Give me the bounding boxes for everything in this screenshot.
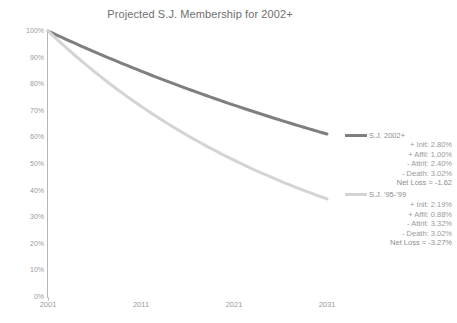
legend-detail-row: - Attrit: 2.40% (345, 159, 452, 169)
legend-detail-row: - Death: 3.02% (345, 229, 452, 239)
legend-entry[interactable]: S.J. 2002+ (345, 130, 457, 140)
legend-detail-row: + Affil: 1.00% (345, 150, 452, 160)
legend-block[interactable]: S.J. '95-'99+ Init: 2.19%+ Affil: 0.88%-… (345, 190, 457, 248)
legend-series-name: S.J. 2002+ (369, 131, 405, 140)
legend-detail-row: + Affil: 0.88% (345, 210, 452, 220)
series-line-1 (48, 31, 327, 134)
legend-net-loss-row: Net Loss = -1.62 (345, 178, 452, 188)
legend-detail-row: + Init: 2.19% (345, 200, 452, 210)
legend-net-loss-row: Net Loss = -3.27% (345, 238, 452, 248)
legend-swatch-icon (345, 134, 367, 137)
legend-block[interactable]: S.J. 2002++ Init: 2.80%+ Affil: 1.00%- A… (345, 130, 457, 188)
chart-container: Projected S.J. Membership for 2002+ 100%… (0, 0, 457, 323)
chart-legend: S.J. 2002++ Init: 2.80%+ Affil: 1.00%- A… (345, 130, 457, 250)
legend-series-name: S.J. '95-'99 (369, 190, 406, 199)
legend-detail-row: - Death: 3.02% (345, 169, 452, 179)
legend-swatch-icon (345, 193, 367, 196)
legend-detail-row: - Attrit: 3.32% (345, 219, 452, 229)
legend-entry[interactable]: S.J. '95-'99 (345, 190, 457, 200)
series-line-2 (48, 31, 327, 199)
legend-detail-rows: + Init: 2.19%+ Affil: 0.88%- Attrit: 3.3… (345, 200, 457, 248)
legend-detail-rows: + Init: 2.80%+ Affil: 1.00%- Attrit: 2.4… (345, 140, 457, 188)
legend-detail-row: + Init: 2.80% (345, 140, 452, 150)
x-axis-tick-mark (48, 297, 49, 301)
